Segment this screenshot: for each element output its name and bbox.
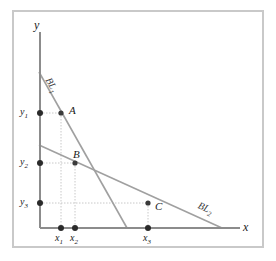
plot-canvas [0,0,276,261]
y-tick-label-y2: y2 [20,156,28,170]
budget-line-figure: y x y1 y2 y3 x1 x2 x3 A B C BL1 BL2 [0,0,276,261]
x-tick-label-x3: x3 [143,232,151,246]
x-tick-label-x2: x2 [70,232,78,246]
y-tick-label-y1: y1 [20,106,28,120]
point-label-a: A [69,104,76,116]
x-tick-label-x1: x1 [55,232,63,246]
x-tick-dot-x3 [145,225,151,231]
data-point-b [72,160,77,165]
data-point-c [145,200,150,205]
x2-sub: 2 [74,238,78,246]
y2-sub: 2 [24,162,28,170]
point-label-b: B [73,148,80,160]
y-axis-label: y [34,18,39,33]
x-tick-dot-x2 [72,225,78,231]
budget-line-2 [39,145,222,228]
x3-sub: 3 [147,238,151,246]
x-tick-dot-x1 [58,225,64,231]
y-tick-dot-y1 [37,110,43,116]
y1-sub: 1 [24,112,28,120]
point-label-c: C [155,200,162,212]
y3-sub: 3 [24,202,28,210]
budget-line-1 [39,72,127,228]
x-axis-label: x [243,220,248,235]
x1-sub: 1 [59,238,63,246]
data-point-a [58,110,63,115]
y-tick-label-y3: y3 [20,196,28,210]
y-tick-dot-y3 [37,200,43,206]
y-tick-dot-y2 [37,160,43,166]
